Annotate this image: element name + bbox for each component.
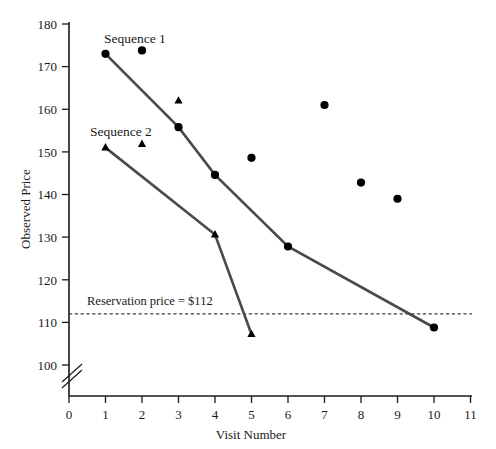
reservation-price-label: Reservation price = $112	[87, 294, 213, 308]
series-4	[138, 96, 183, 147]
y-axis-title: Observed Price	[18, 169, 33, 249]
marker-triangle	[101, 143, 109, 150]
y-tick-label-150: 150	[38, 145, 58, 160]
marker-circle	[357, 178, 365, 186]
x-tick-label-3: 3	[175, 407, 182, 422]
marker-circle	[430, 323, 438, 331]
x-axis-title: Visit Number	[216, 427, 287, 442]
x-tick-label-5: 5	[248, 407, 255, 422]
y-tick-label-100: 100	[38, 358, 58, 373]
x-tick-label-9: 9	[394, 407, 401, 422]
x-tick-label-11: 11	[464, 407, 477, 422]
marker-circle	[174, 123, 182, 131]
marker-circle	[393, 195, 401, 203]
x-tick-label-4: 4	[212, 407, 219, 422]
x-tick-label-2: 2	[139, 407, 146, 422]
marker-triangle	[138, 140, 146, 147]
y-tick-label-180: 180	[38, 17, 58, 32]
x-tick-label-10: 10	[428, 407, 441, 422]
y-tick-label-130: 130	[38, 230, 58, 245]
series-1	[101, 50, 438, 332]
x-tick-label-1: 1	[102, 407, 109, 422]
marker-circle	[247, 154, 255, 162]
series-2	[101, 143, 255, 337]
y-tick-label-140: 140	[38, 187, 58, 202]
sequence-2-label: Sequence 2	[90, 124, 152, 139]
series-line-1	[106, 54, 435, 328]
x-tick-label-0: 0	[66, 407, 73, 422]
marker-circle	[284, 242, 292, 250]
reservation-price-annotation: Reservation price = $112	[69, 294, 472, 314]
chart-plot-area: 180 170 160 150 140 130 120 110 100 Obse…	[0, 0, 496, 449]
x-tick-label-6: 6	[285, 407, 292, 422]
x-tick-label-8: 8	[358, 407, 365, 422]
x-axis: 0 1 2 3 4 5 6 7 8 9 10 11 Visit Number	[66, 396, 477, 442]
x-tick-label-7: 7	[321, 407, 328, 422]
marker-circle	[211, 171, 219, 179]
y-tick-label-120: 120	[38, 273, 58, 288]
marker-circle	[138, 46, 146, 54]
sequence-1-label: Sequence 1	[104, 31, 166, 46]
y-axis-break-icon	[62, 364, 82, 388]
marker-triangle	[174, 96, 182, 103]
y-tick-label-160: 160	[38, 102, 58, 117]
marker-circle	[101, 50, 109, 58]
y-tick-label-170: 170	[38, 59, 58, 74]
marker-triangle	[247, 330, 255, 337]
y-axis: 180 170 160 150 140 130 120 110 100 Obse…	[18, 17, 82, 396]
marker-circle	[320, 101, 328, 109]
y-tick-label-110: 110	[38, 315, 57, 330]
chart-figure: 180 170 160 150 140 130 120 110 100 Obse…	[0, 0, 496, 449]
